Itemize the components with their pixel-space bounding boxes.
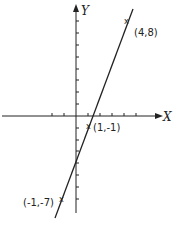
- point-label-4-8: (4,8): [134, 27, 158, 38]
- point-marker-neg1-neg7: x: [59, 195, 64, 204]
- coordinate-plot: x x x (4,8) (1,-1) (-1,-7) X Y: [0, 0, 176, 227]
- x-axis-label: X: [162, 110, 172, 124]
- x-axis-arrow-icon: [155, 113, 163, 119]
- point-label-1-neg1: (1,-1): [93, 122, 120, 133]
- plotted-line: [55, 9, 133, 218]
- point-marker-1-neg1: x: [86, 122, 91, 131]
- point-marker-4-8: x: [124, 17, 129, 26]
- point-label-neg1-neg7: (-1,-7): [23, 197, 54, 208]
- y-axis-arrow-icon: [73, 4, 79, 12]
- y-axis-label: Y: [81, 4, 90, 18]
